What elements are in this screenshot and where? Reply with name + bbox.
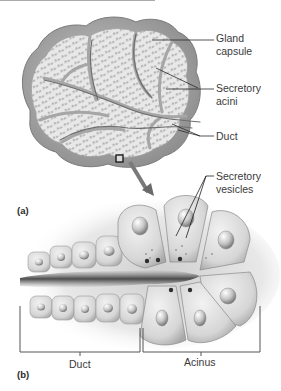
label-duct-a: Duct (216, 130, 238, 143)
gland-illustration (22, 17, 200, 196)
label-secretory-acini: Secretory acini (216, 82, 261, 107)
label-acinus: Acinus (184, 356, 216, 369)
panel-label-b: (b) (17, 369, 29, 380)
label-gland-capsule: Gland capsule (216, 32, 252, 57)
magnification-box (116, 155, 123, 162)
label-duct-b: Duct (69, 358, 91, 371)
gland-diagram (0, 0, 281, 391)
panel-label-a: (a) (17, 205, 29, 216)
acinus-illustration (20, 196, 280, 351)
label-secretory-vesicles: Secretory vesicles (216, 170, 261, 195)
